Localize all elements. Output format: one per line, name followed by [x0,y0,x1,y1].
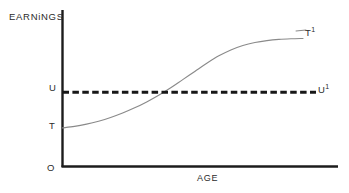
earnings-curve-line [63,38,304,127]
earnings-age-figure: EARNiNGS AGE O U T T1 U1 [0,0,349,193]
reference-line-endpoint-label-u-prime: U1 [318,83,329,95]
t-prime-superscript: 1 [311,26,315,33]
x-axis-title: AGE [197,174,218,183]
u-prime-superscript: 1 [325,83,329,90]
y-axis-title: EARNiNGS [9,12,64,22]
y-tick-label-u: U [49,83,56,93]
y-tick-label-t: T [49,121,55,131]
origin-label: O [47,163,55,173]
curve-endpoint-label-t-prime: T1 [305,26,315,38]
